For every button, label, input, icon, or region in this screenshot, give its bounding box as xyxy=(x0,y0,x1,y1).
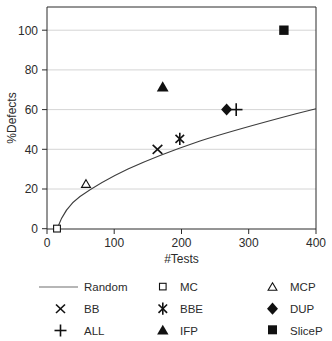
marker-slicep xyxy=(279,26,288,35)
legend-item-bb[interactable]: BB xyxy=(56,303,100,315)
legend-label-slicep: SliceP xyxy=(290,325,323,337)
legend-item-dup[interactable]: DUP xyxy=(267,303,315,315)
legend-item-all[interactable]: ALL xyxy=(55,325,106,338)
x-axis-tick-labels: 0 100 200 300 400 xyxy=(44,236,327,250)
x-axis-ticks xyxy=(47,229,316,234)
legend-label-ifp: IFP xyxy=(180,325,198,337)
legend-item-slicep[interactable]: SliceP xyxy=(268,325,323,337)
legend-item-random[interactable]: Random xyxy=(39,281,127,293)
legend-label-bbe: BBE xyxy=(180,303,203,315)
plot-background xyxy=(47,7,316,229)
chart-figure: 100 80 60 40 20 0 0 100 200 300 400 #Tes… xyxy=(0,0,332,341)
open-square-icon xyxy=(160,283,167,290)
xtick-label-100: 100 xyxy=(104,236,124,250)
ytick-label-40: 40 xyxy=(25,143,39,157)
xtick-label-0: 0 xyxy=(44,236,51,250)
legend-item-ifp[interactable]: IFP xyxy=(157,325,198,337)
legend-label-random: Random xyxy=(84,281,127,293)
chart-legend: Random MC MCP BB xyxy=(39,281,323,337)
filled-square-icon xyxy=(268,325,277,334)
legend-label-mcp: MCP xyxy=(290,281,316,293)
legend-label-all: ALL xyxy=(84,325,105,337)
legend-item-mcp[interactable]: MCP xyxy=(268,281,316,293)
ytick-label-80: 80 xyxy=(25,63,39,77)
filled-diamond-icon xyxy=(267,303,278,315)
xtick-label-400: 400 xyxy=(306,236,326,250)
legend-label-bb: BB xyxy=(84,303,100,315)
ytick-label-20: 20 xyxy=(25,182,39,196)
defects-vs-tests-scatter-chart: 100 80 60 40 20 0 0 100 200 300 400 #Tes… xyxy=(0,0,332,341)
legend-item-bbe[interactable]: BBE xyxy=(159,303,204,316)
xtick-label-300: 300 xyxy=(239,236,259,250)
ytick-label-60: 60 xyxy=(25,103,39,117)
asterisk-icon xyxy=(159,303,168,315)
y-axis-ticks xyxy=(42,30,47,229)
legend-label-dup: DUP xyxy=(290,303,315,315)
cross-x-icon xyxy=(56,305,65,314)
legend-label-mc: MC xyxy=(180,281,198,293)
plus-icon xyxy=(55,325,67,337)
ytick-label-0: 0 xyxy=(31,222,38,236)
ytick-label-100: 100 xyxy=(18,24,38,38)
y-axis-title: %Defects xyxy=(5,92,19,143)
legend-item-mc[interactable]: MC xyxy=(160,281,198,293)
y-axis-tick-labels: 100 80 60 40 20 0 xyxy=(18,24,38,237)
filled-triangle-icon xyxy=(157,325,168,335)
open-triangle-icon xyxy=(268,283,277,290)
xtick-label-200: 200 xyxy=(171,236,191,250)
marker-mc xyxy=(54,225,61,232)
x-axis-title: #Tests xyxy=(164,252,199,266)
